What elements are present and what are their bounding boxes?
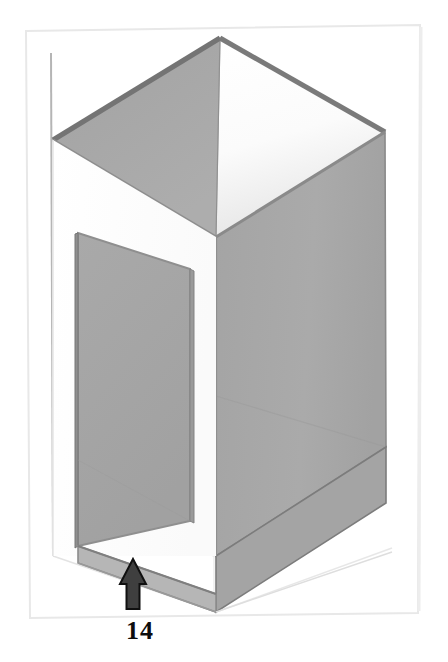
isometric-box-drawing — [0, 0, 448, 662]
dimension-label-14: 14 — [109, 616, 171, 646]
figure-canvas: 14 — [0, 0, 448, 662]
interior-partition-panel — [75, 233, 194, 548]
